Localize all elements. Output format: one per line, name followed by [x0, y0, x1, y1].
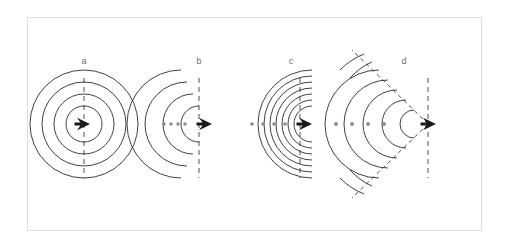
- panel-c: c: [250, 56, 312, 178]
- wavefront-arc: [350, 62, 372, 78]
- panel-b: b: [127, 56, 212, 178]
- panel-a: a: [30, 56, 138, 178]
- trail-dot: [272, 122, 276, 126]
- trail-dot: [169, 122, 172, 125]
- panel-a-label: a: [81, 56, 86, 66]
- wave-diagram-svg: a b: [0, 0, 508, 251]
- panel-c-source-trail: [250, 122, 287, 126]
- trail-dot: [176, 122, 179, 125]
- panel-c-label: c: [289, 56, 294, 66]
- wavefront-arc: [340, 178, 364, 194]
- panel-b-aircraft: [197, 118, 213, 130]
- trail-dot: [261, 122, 265, 126]
- trail-dot: [162, 122, 165, 125]
- wavefront-arc: [400, 110, 414, 138]
- trail-dot: [350, 122, 354, 126]
- panel-d: d: [325, 50, 436, 198]
- wavefront-arc: [127, 70, 181, 178]
- panel-a-aircraft: [75, 118, 91, 130]
- figure-root: a b: [0, 0, 508, 251]
- trail-dot: [334, 122, 338, 126]
- panel-d-aircraft: [421, 118, 437, 130]
- trail-dot: [250, 122, 254, 126]
- trail-dot: [366, 122, 370, 126]
- trail-dot: [382, 122, 386, 126]
- panel-b-label: b: [196, 56, 201, 66]
- panel-d-label: d: [401, 56, 406, 66]
- trail-dot: [183, 122, 186, 125]
- wavefront-arc: [350, 170, 372, 186]
- panel-b-source-trail: [162, 122, 186, 125]
- panel-c-aircraft: [297, 118, 313, 130]
- panel-d-source-trail: [334, 122, 386, 126]
- wavefront-arc: [340, 54, 364, 70]
- trail-dot: [283, 122, 287, 126]
